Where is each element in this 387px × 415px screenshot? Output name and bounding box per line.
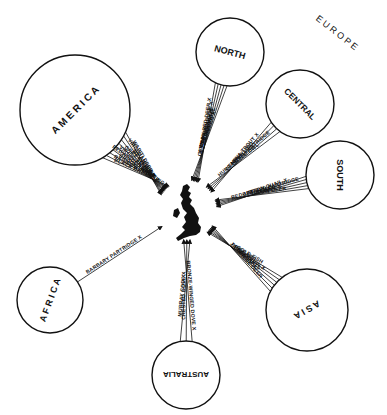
species-label: CRESTED DOVE X [180,271,186,320]
introduced-species-diagram: A M E R I C ANORTHCENTRALSOUTHA S I AAUS… [0,0,387,415]
group-labels: E U R O P E [314,13,360,52]
group-label-europe: E U R O P E [314,13,360,52]
species-label: BARBARY PARTRIDGE X [85,233,144,274]
arrow-line [78,226,162,281]
region-label-europe-south: SOUTH [335,159,345,191]
region-label-australia: AUSTRALIA [163,370,209,379]
region-africa-arrows [78,226,162,281]
species-label: GENEVA TROUT X [224,131,260,172]
species-label: BRONZE-WINGED DOVE X [186,260,198,331]
great-britain-map-icon [173,184,201,241]
arrow-line [206,131,280,187]
